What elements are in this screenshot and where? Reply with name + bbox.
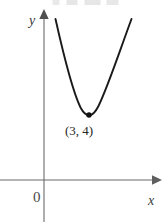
parabola-curve bbox=[56, 19, 132, 115]
x-axis-label: x bbox=[148, 194, 154, 208]
y-axis-arrowhead bbox=[39, 9, 48, 19]
x-axis-arrowhead bbox=[152, 175, 162, 185]
origin-label: 0 bbox=[33, 190, 41, 205]
vertex-point-marker bbox=[86, 112, 91, 117]
parabola-figure: y x 0 (3, 4) bbox=[0, 0, 165, 222]
y-axis-label: y bbox=[29, 14, 35, 28]
figure-canvas bbox=[0, 0, 165, 222]
vertex-coordinate-label: (3, 4) bbox=[65, 124, 93, 137]
